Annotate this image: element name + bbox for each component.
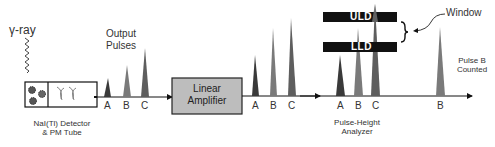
analyzer-label: Pulse-Height Analyzer [322,118,392,136]
counted-line1: Pulse B [452,56,492,65]
output-pulses-line1: Output [106,28,136,40]
amplifier-line2: Amplifier [172,95,242,107]
detector-label-line2: & PM Tube [22,128,102,137]
gamma-ray-label: γ-ray [9,24,36,38]
linear-amplifier-label: Linear Amplifier [172,83,242,106]
analyzer-label-line2: Analyzer [322,127,392,136]
pulse-b-stage1 [123,65,131,97]
pulse-label-b-counted: B [437,100,444,112]
window-arrow-icon [415,14,445,31]
output-pulses-line2: Pulses [106,40,136,52]
pulse-a-analyzer [336,55,345,96]
lld-label: LLD [351,41,372,53]
window-brace-icon [401,22,408,42]
uld-label: ULD [350,11,372,23]
gamma-ray-wave-icon [25,38,39,86]
pulse-label-c3: C [372,100,379,112]
pulse-a-stage2 [252,55,259,96]
window-label: Window [446,7,482,19]
pulse-label-b1: B [123,100,130,112]
pulse-label-a1: A [104,100,111,112]
pulse-a-stage1 [104,78,111,97]
pulse-b-counted [436,27,445,96]
pulse-b-stage2 [270,28,277,96]
counted-label: Pulse B Counted [452,56,492,74]
pulse-label-b2: B [270,100,277,112]
pulse-label-c1: C [141,100,148,112]
analyzer-label-line1: Pulse-Height [322,118,392,127]
detector-label-line1: NaI(Tl) Detector [22,119,102,128]
pulse-label-c2: C [288,100,295,112]
output-pulses-label: Output Pulses [106,28,136,51]
detector-icon [25,82,97,107]
pulse-label-a3: A [337,100,344,112]
counted-line2: Counted [452,65,492,74]
pulse-c-stage2 [288,18,296,96]
pulse-label-b3: B [355,100,362,112]
detector-label: NaI(Tl) Detector & PM Tube [22,119,102,137]
pulse-label-a2: A [252,100,259,112]
pulse-b-analyzer [354,28,363,96]
amplifier-line1: Linear [172,83,242,95]
pulse-c-stage1 [141,48,149,97]
